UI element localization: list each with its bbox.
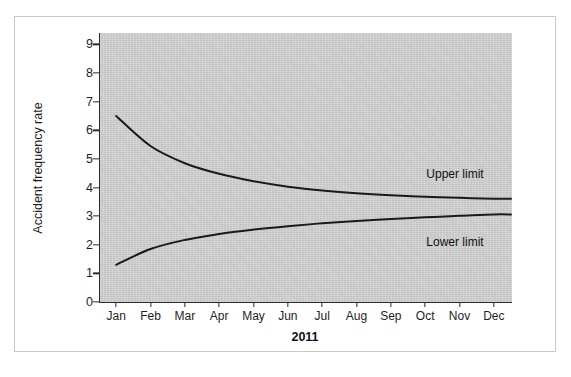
x-tick-label: Jul xyxy=(314,310,329,322)
y-tick-label: 5 xyxy=(67,153,93,166)
x-tick-mark xyxy=(116,302,117,307)
y-tick-label: 1 xyxy=(67,267,93,280)
y-tick-label: 9 xyxy=(67,38,93,51)
x-tick-label: Sep xyxy=(380,310,401,322)
y-tick-mark xyxy=(93,187,99,188)
y-tick-mark xyxy=(93,101,99,102)
x-tick-mark xyxy=(425,302,426,307)
y-tick-mark xyxy=(93,44,99,45)
x-tick-mark xyxy=(390,302,391,307)
x-tick-mark xyxy=(184,302,185,307)
y-tick-mark xyxy=(93,72,99,73)
x-tick-mark xyxy=(322,302,323,307)
y-tick-mark xyxy=(93,273,99,274)
x-axis-title: 2011 xyxy=(291,330,318,344)
x-tick-label: Oct xyxy=(416,310,435,322)
x-tick-label: Mar xyxy=(174,310,195,322)
annotation-upper-limit: Upper limit xyxy=(426,167,483,181)
x-tick-mark xyxy=(459,302,460,307)
y-tick-label: 7 xyxy=(67,95,93,108)
x-tick-label: Apr xyxy=(210,310,229,322)
x-axis-tick-labels: JanFebMarAprMayJunJulAugSepOctNovDec xyxy=(0,310,571,328)
y-tick-label: 6 xyxy=(67,124,93,137)
series-upper-limit xyxy=(116,116,511,199)
y-tick-label: 8 xyxy=(67,67,93,80)
x-tick-label: Dec xyxy=(483,310,504,322)
x-tick-label: Aug xyxy=(346,310,367,322)
y-tick-mark xyxy=(93,215,99,216)
y-tick-mark xyxy=(93,130,99,131)
x-tick-mark xyxy=(493,302,494,307)
y-tick-mark xyxy=(93,158,99,159)
x-tick-mark xyxy=(150,302,151,307)
x-tick-label: May xyxy=(242,310,265,322)
x-tick-mark xyxy=(253,302,254,307)
x-tick-label: Feb xyxy=(140,310,161,322)
y-tick-label: 2 xyxy=(67,239,93,252)
y-tick-label: 3 xyxy=(67,210,93,223)
x-tick-mark xyxy=(287,302,288,307)
y-axis-title: Accident frequency rate xyxy=(31,102,45,233)
x-tick-label: Jun xyxy=(278,310,297,322)
y-tick-mark xyxy=(93,301,99,302)
x-tick-label: Nov xyxy=(449,310,470,322)
annotation-lower-limit: Lower limit xyxy=(426,235,483,249)
y-tick-label: 4 xyxy=(67,181,93,194)
y-tick-label: 0 xyxy=(67,296,93,309)
x-tick-mark xyxy=(219,302,220,307)
y-tick-mark xyxy=(93,244,99,245)
x-tick-label: Jan xyxy=(106,310,125,322)
x-tick-mark xyxy=(356,302,357,307)
